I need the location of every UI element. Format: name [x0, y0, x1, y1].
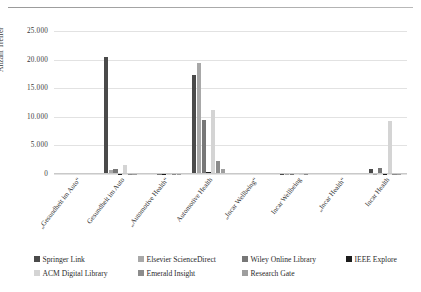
- top-divider: [8, 7, 413, 8]
- legend-swatch-icon: [34, 256, 40, 262]
- chart-legend: Springer LinkElsevier ScienceDirectWiley…: [34, 252, 414, 286]
- legend-item[interactable]: Wiley Online Library: [242, 255, 316, 264]
- bar-group: [98, 31, 142, 174]
- x-tick-label: „Gesundheit im Auto“: [38, 176, 83, 230]
- legend-item[interactable]: Emerald Insight: [138, 269, 195, 278]
- bar: [202, 120, 206, 174]
- y-axis-title: Anzahl Treffer: [0, 27, 5, 72]
- bar-chart: 05.00010.00015.00020.00025.000 Anzahl Tr…: [0, 0, 421, 292]
- plot-area: [54, 31, 407, 174]
- bar: [197, 63, 201, 174]
- x-tick-label: „Incar Health“: [316, 176, 348, 213]
- legend-swatch-icon: [138, 256, 144, 262]
- x-tick-slot: Automotive Health: [186, 176, 230, 242]
- legend-swatch-icon: [242, 256, 248, 262]
- legend-label: ACM Digital Library: [43, 269, 108, 278]
- legend-swatch-icon: [138, 270, 144, 276]
- y-axis-tick-labels: 05.00010.00015.00020.00025.000: [0, 31, 48, 174]
- legend-row-1: Springer LinkElsevier ScienceDirectWiley…: [34, 252, 414, 266]
- y-tick-label: 15.000: [4, 84, 48, 92]
- x-tick-slot: Incar Health: [363, 176, 407, 242]
- legend-swatch-icon: [346, 256, 352, 262]
- y-tick-label: 5.000: [4, 141, 48, 149]
- bar: [104, 57, 108, 174]
- x-axis-line: [54, 173, 407, 174]
- y-tick-label: 25.000: [4, 27, 48, 35]
- bar: [192, 75, 196, 174]
- y-tick-label: 10.000: [4, 113, 48, 121]
- y-tick-label: 20.000: [4, 56, 48, 64]
- x-tick-slot: „Automotive Health“: [142, 176, 186, 242]
- x-tick-slot: „Incar Wellbeing“: [231, 176, 275, 242]
- bar-group: [142, 31, 186, 174]
- legend-label: IEEE Explore: [355, 255, 397, 264]
- bar-groups: [54, 31, 407, 174]
- bar-group: [275, 31, 319, 174]
- x-tick-label: Incar Health: [364, 176, 392, 208]
- legend-row-2: ACM Digital LibraryEmerald InsightResear…: [34, 266, 414, 280]
- x-tick-slot: „Gesundheit im Auto“: [54, 176, 98, 242]
- legend-swatch-icon: [34, 270, 40, 276]
- legend-item[interactable]: IEEE Explore: [346, 255, 397, 264]
- x-tick-slot: Gesundheit im Auto: [98, 176, 142, 242]
- legend-label: Wiley Online Library: [251, 255, 317, 264]
- legend-label: Research Gate: [251, 269, 295, 278]
- legend-item[interactable]: Elsevier ScienceDirect: [138, 255, 216, 264]
- y-tick-label: 0: [4, 170, 48, 178]
- x-axis-tick-labels: „Gesundheit im Auto“Gesundheit im Auto„A…: [54, 176, 407, 246]
- bar: [211, 110, 215, 174]
- x-tick-slot: „Incar Health“: [319, 176, 363, 242]
- legend-label: Springer Link: [43, 255, 85, 264]
- bar: [388, 121, 392, 174]
- bar-group: [54, 31, 98, 174]
- legend-item[interactable]: ACM Digital Library: [34, 269, 107, 278]
- x-tick-slot: Incar Wellbeing: [275, 176, 319, 242]
- legend-swatch-icon: [242, 270, 248, 276]
- legend-item[interactable]: Springer Link: [34, 255, 85, 264]
- x-tick-label: Incar Wellbeing: [269, 176, 303, 216]
- bar-group: [231, 31, 275, 174]
- gridline: [54, 174, 407, 175]
- bar-group: [186, 31, 230, 174]
- legend-label: Elsevier ScienceDirect: [147, 255, 216, 264]
- bar: [216, 161, 220, 174]
- bar-group: [319, 31, 363, 174]
- bar-group: [363, 31, 407, 174]
- legend-item[interactable]: Research Gate: [242, 269, 295, 278]
- legend-label: Emerald Insight: [147, 269, 196, 278]
